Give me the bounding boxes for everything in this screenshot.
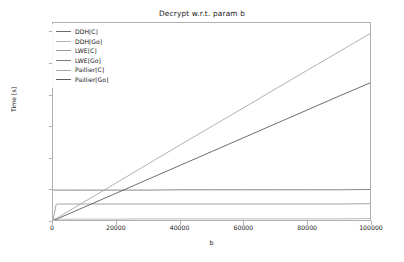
legend-label: LWE[Go] [75, 56, 101, 66]
y-axis-label: Time [s] [10, 70, 17, 130]
legend-item-lwec[interactable]: LWE[C] [54, 46, 108, 56]
legend-item-ddhc[interactable]: DDH[C] [54, 27, 108, 37]
legend-swatch-icon [56, 50, 71, 51]
legend-label: LWE[C] [75, 46, 97, 56]
series-line [53, 204, 371, 220]
legend-swatch-icon [56, 79, 71, 80]
x-tick-mark [307, 221, 308, 225]
x-tick-label: 80000 [277, 224, 337, 231]
x-tick-label: 40000 [150, 224, 210, 231]
series-line [53, 189, 371, 190]
x-tick-mark [52, 221, 53, 225]
x-axis-label: b [52, 239, 371, 247]
legend-label: Paillier[Go] [75, 75, 108, 85]
x-tick-label: 60000 [213, 224, 273, 231]
page-title: Decrypt w.r.t. param b [0, 9, 404, 18]
legend-label: Paillier[C] [75, 65, 104, 75]
series-line [53, 82, 371, 221]
x-tick-mark [243, 221, 244, 225]
legend-item-ddhgo[interactable]: DDH[Go] [54, 37, 108, 47]
x-tick-mark [116, 221, 117, 225]
series-line [53, 219, 371, 220]
legend-label: DDH[Go] [75, 37, 102, 47]
matplotlib-figure: Decrypt w.r.t. param b Time [s] b 0.00.1… [0, 0, 404, 262]
x-tick-label: 100000 [341, 224, 401, 231]
x-tick-label: 0 [22, 224, 82, 231]
legend-swatch-icon [56, 60, 71, 61]
legend-swatch-icon [56, 31, 71, 32]
chart-legend: DDH[C]DDH[Go]LWE[C]LWE[Go]Paillier[C]Pai… [52, 24, 112, 88]
x-tick-label: 20000 [86, 224, 146, 231]
legend-item-paillierc[interactable]: Paillier[C] [54, 65, 108, 75]
legend-swatch-icon [56, 70, 71, 71]
legend-item-lwego[interactable]: LWE[Go] [54, 56, 108, 66]
x-tick-mark [180, 221, 181, 225]
legend-swatch-icon [56, 41, 71, 42]
x-tick-mark [371, 221, 372, 225]
legend-item-pailliergo[interactable]: Paillier[Go] [54, 75, 108, 85]
legend-label: DDH[C] [75, 27, 98, 37]
